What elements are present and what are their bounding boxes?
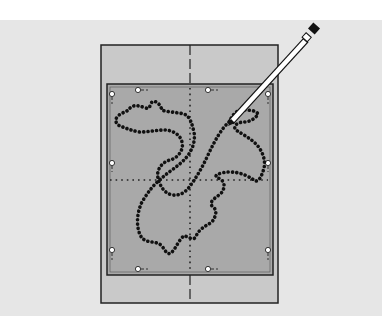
illustration: [0, 0, 387, 322]
